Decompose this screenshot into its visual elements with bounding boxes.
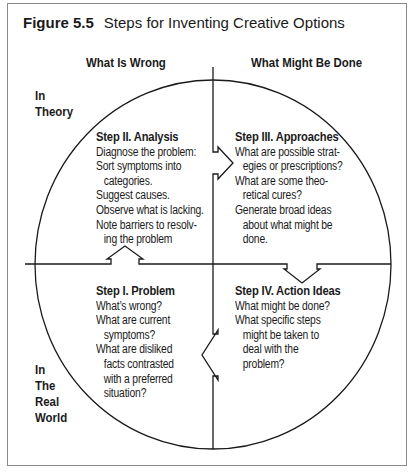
row-label-in-theory: In Theory	[35, 88, 73, 120]
column-header-what-is-wrong: What Is Wrong	[86, 55, 166, 70]
step-2-analysis: Step II. Analysis Diagnose the problem: …	[96, 130, 204, 247]
step-1-problem: Step I. Problem What’s wrong? What are c…	[96, 284, 175, 401]
vertical-axis-with-arrows	[202, 67, 233, 449]
column-header-what-might-be-done: What Might Be Done	[251, 55, 362, 70]
row-label-in-the-real-world: In The Real World	[35, 362, 67, 426]
step-2-title: Step II. Analysis	[96, 130, 204, 145]
step-4-action-ideas: Step IV. Action Ideas What might be done…	[235, 284, 341, 372]
step-4-title: Step IV. Action Ideas	[235, 284, 341, 299]
step-3-approaches: Step III. Approaches What are possible s…	[235, 130, 343, 247]
horizontal-axis-with-arrows	[25, 246, 391, 283]
step-1-title: Step I. Problem	[96, 284, 175, 299]
step-3-title: Step III. Approaches	[235, 130, 343, 145]
